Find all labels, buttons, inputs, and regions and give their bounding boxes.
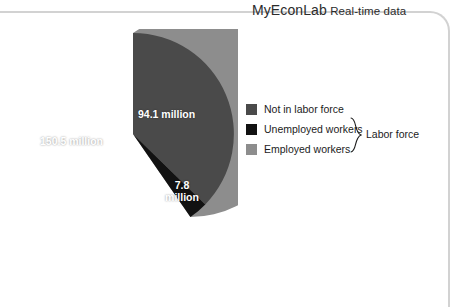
legend-swatch-not-in-labor-force: [246, 104, 257, 115]
legend-swatch-unemployed: [246, 124, 257, 135]
legend-item-not-in-labor-force[interactable]: Not in labor force: [246, 101, 446, 117]
legend-label-employed: Employed workers: [264, 143, 350, 155]
pie-label-unemployed-value: 7.8: [175, 179, 190, 191]
pie-chart-svg: [28, 29, 238, 239]
labor-force-bracket-label: Labor force: [366, 128, 419, 140]
legend-label-unemployed: Unemployed workers: [264, 123, 363, 135]
legend-label-not-in-labor-force: Not in labor force: [264, 103, 344, 115]
pie-label-employed: 150.5 million: [40, 136, 103, 148]
labor-force-brace-icon: [350, 117, 362, 153]
legend-item-employed[interactable]: Employed workers: [246, 141, 446, 157]
pie-label-unemployed-unit: million: [165, 191, 199, 203]
pie-label-not-in-labor-force: 94.1 million: [138, 109, 195, 121]
legend-swatch-employed: [246, 144, 257, 155]
pie-label-unemployed: 7.8 million: [160, 180, 204, 203]
